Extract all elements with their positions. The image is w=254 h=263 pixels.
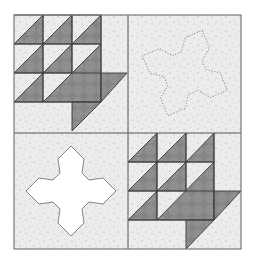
quilt-diagram	[0, 0, 254, 263]
